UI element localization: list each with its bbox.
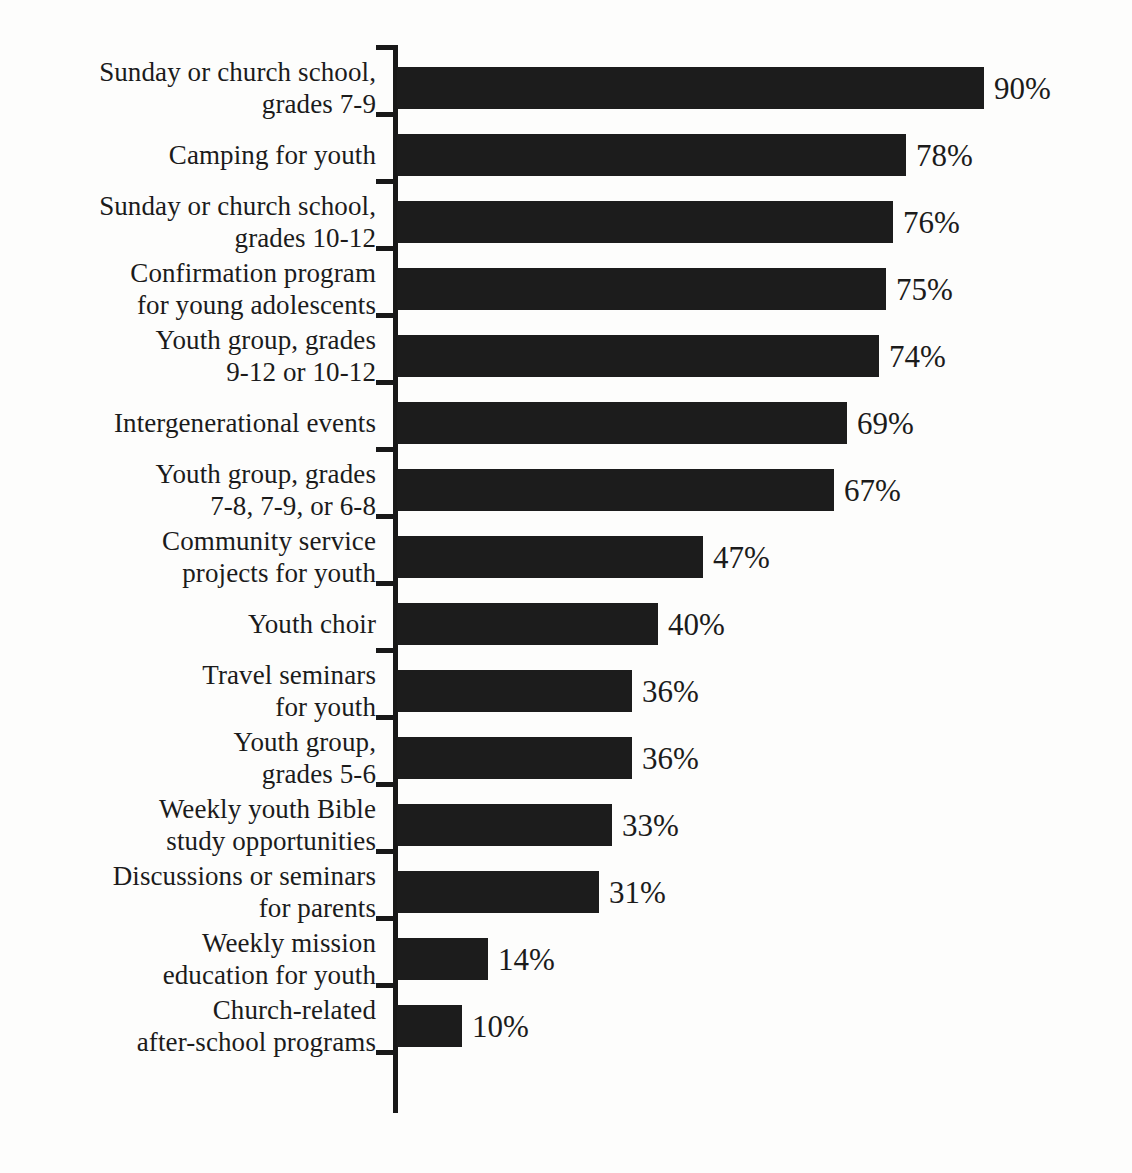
bar-value-label: 40%: [668, 604, 725, 646]
bar: [397, 134, 906, 176]
category-label: Community service projects for youth: [16, 525, 376, 589]
bar: [397, 1005, 462, 1047]
bar-row: Youth group, grades 7-8, 7-9, or 6-867%: [0, 447, 1132, 514]
bar: [397, 201, 893, 243]
axis-tick: [376, 514, 396, 519]
bar-value-label: 47%: [713, 537, 770, 579]
category-label: Youth group, grades 7-8, 7-9, or 6-8: [16, 458, 376, 522]
bar-row-axis-end: [0, 1050, 1132, 1117]
bar-row: Youth choir40%: [0, 581, 1132, 648]
bar-row: Youth group, grades 5-636%: [0, 715, 1132, 782]
axis-tick: [376, 313, 396, 318]
bar-row: Weekly mission education for youth14%: [0, 916, 1132, 983]
bar: [397, 402, 847, 444]
axis-tick: [376, 849, 396, 854]
plot-area: Sunday or church school, grades 7-990%Ca…: [0, 0, 1132, 1173]
bar: [397, 603, 658, 645]
bar: [397, 67, 984, 109]
axis-tick: [376, 581, 396, 586]
bar-row: Travel seminars for youth36%: [0, 648, 1132, 715]
bar-row: Discussions or seminars for parents31%: [0, 849, 1132, 916]
axis-tick: [376, 648, 396, 653]
bar: [397, 938, 488, 980]
bar-chart: Sunday or church school, grades 7-990%Ca…: [0, 0, 1132, 1173]
axis-tick: [376, 179, 396, 184]
bar: [397, 469, 834, 511]
bar-value-label: 78%: [916, 135, 973, 177]
bar-value-label: 10%: [472, 1006, 529, 1048]
axis-tick: [376, 447, 396, 452]
axis-tick: [376, 45, 396, 50]
bar-value-label: 75%: [896, 269, 953, 311]
bar: [397, 670, 632, 712]
axis-tick: [376, 916, 396, 921]
bar: [397, 268, 886, 310]
category-label: Discussions or seminars for parents: [16, 860, 376, 924]
bar-row: Sunday or church school, grades 10-1276%: [0, 179, 1132, 246]
axis-tick: [376, 1050, 396, 1055]
bar-value-label: 36%: [642, 671, 699, 713]
category-label: Youth group, grades 9-12 or 10-12: [16, 324, 376, 388]
category-label: Sunday or church school, grades 10-12: [16, 190, 376, 254]
bar-value-label: 31%: [609, 872, 666, 914]
bar-row: Confirmation program for young adolescen…: [0, 246, 1132, 313]
bar-row: Church-related after-school programs10%: [0, 983, 1132, 1050]
bar-value-label: 33%: [622, 805, 679, 847]
bar-value-label: 67%: [844, 470, 901, 512]
category-label: Church-related after-school programs: [16, 994, 376, 1058]
category-label: Weekly youth Bible study opportunities: [16, 793, 376, 857]
category-label: Sunday or church school, grades 7-9: [16, 56, 376, 120]
bar: [397, 737, 632, 779]
axis-tick: [376, 380, 396, 385]
category-label: Weekly mission education for youth: [16, 927, 376, 991]
bar-row: Camping for youth78%: [0, 112, 1132, 179]
category-label: Youth group, grades 5-6: [16, 726, 376, 790]
axis-tick: [376, 983, 396, 988]
bar-value-label: 76%: [903, 202, 960, 244]
bar-row: Youth group, grades 9-12 or 10-1274%: [0, 313, 1132, 380]
bar-value-label: 74%: [889, 336, 946, 378]
category-label: Intergenerational events: [16, 407, 376, 439]
bar-row: Intergenerational events69%: [0, 380, 1132, 447]
axis-tick: [376, 782, 396, 787]
category-label: Confirmation program for young adolescen…: [16, 257, 376, 321]
bar: [397, 335, 879, 377]
bar-value-label: 14%: [498, 939, 555, 981]
axis-tick: [376, 112, 396, 117]
category-label: Travel seminars for youth: [16, 659, 376, 723]
bar: [397, 804, 612, 846]
bar: [397, 536, 703, 578]
bar-row: Sunday or church school, grades 7-990%: [0, 45, 1132, 112]
bar: [397, 871, 599, 913]
bar-value-label: 90%: [994, 68, 1051, 110]
category-label: Youth choir: [16, 608, 376, 640]
axis-tick: [376, 246, 396, 251]
axis-tick: [376, 715, 396, 720]
bar-value-label: 69%: [857, 403, 914, 445]
bar-row: Community service projects for youth47%: [0, 514, 1132, 581]
category-label: Camping for youth: [16, 139, 376, 171]
bar-value-label: 36%: [642, 738, 699, 780]
bar-row: Weekly youth Bible study opportunities33…: [0, 782, 1132, 849]
